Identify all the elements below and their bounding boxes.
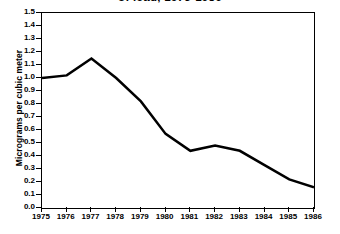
y-tick-label: 0.0 [0,203,35,211]
y-tick-label: 0.1 [0,190,35,198]
y-tick-label: 1.3 [0,34,35,42]
chart-title: of lead, 1975-1986 [0,0,340,3]
x-tick-label: 1986 [293,213,333,221]
y-tick-label: 0.2 [0,177,35,185]
y-tick-label: 1.2 [0,47,35,55]
data-line-series [42,13,314,208]
y-tick-label: 1.1 [0,60,35,68]
plot-inner [42,13,314,208]
y-tick-label: 0.3 [0,164,35,172]
y-tick-label: 0.9 [0,86,35,94]
y-tick-label: 0.8 [0,99,35,107]
y-tick-label: 0.5 [0,138,35,146]
y-axis-title: Micrograms per cubic meter [14,33,24,183]
lead-concentration-line [42,59,314,188]
plot-area [41,12,315,209]
y-tick-label: 1.5 [0,8,35,16]
y-tick-label: 1.4 [0,21,35,29]
y-tick-label: 1.0 [0,73,35,81]
y-tick-label: 0.7 [0,112,35,120]
y-tick-label: 0.4 [0,151,35,159]
y-tick-label: 0.6 [0,125,35,133]
chart-container: of lead, 1975-1986 Micrograms per cubic … [0,0,340,234]
